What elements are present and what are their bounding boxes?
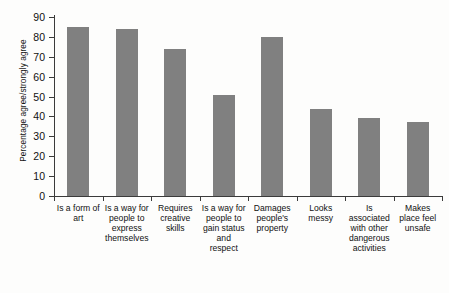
x-axis-tick: [297, 196, 298, 201]
y-axis-tick-label: 30: [19, 131, 45, 141]
x-axis-category-label: Makes place feel unsafe: [396, 204, 441, 234]
x-axis-tick: [248, 196, 249, 201]
bars-layer: [54, 17, 442, 196]
y-axis-tick-label: 10: [19, 171, 45, 181]
x-axis-tick: [200, 196, 201, 201]
bar: [358, 118, 380, 196]
bar: [67, 27, 89, 196]
x-axis-tick: [394, 196, 395, 201]
x-axis-category-label: Is associated with other dangerous activ…: [347, 204, 392, 254]
y-axis-tick-label: 20: [19, 151, 45, 161]
bar-chart-figure: Percentage agree/strongly agree 01020304…: [0, 0, 449, 293]
bar: [116, 29, 138, 196]
bar: [407, 122, 429, 196]
bar: [164, 49, 186, 196]
x-axis-category-label: Is a way for people to express themselve…: [105, 204, 150, 244]
y-axis-tick-label: 90: [19, 12, 45, 22]
x-axis-category-label: Requires creative skills: [153, 204, 198, 234]
x-axis-tick: [54, 196, 55, 201]
x-axis-category-label: Is a form of art: [56, 204, 101, 224]
x-axis-category-label: Is a way for people to gain status and r…: [202, 204, 247, 254]
x-axis-category-label: Damages people's property: [250, 204, 295, 234]
bar: [310, 109, 332, 197]
x-axis-category-label: Looks messy: [299, 204, 344, 224]
bar: [261, 37, 283, 196]
x-axis-category-labels: Is a form of artIs a way for people to e…: [54, 204, 442, 286]
y-axis-tick-label: 40: [19, 111, 45, 121]
x-axis-tick: [345, 196, 346, 201]
x-axis-tick: [442, 196, 443, 201]
bar: [213, 95, 235, 196]
x-axis-tick: [151, 196, 152, 201]
y-axis-tick-label: 60: [19, 72, 45, 82]
y-axis-tick-label: 0: [19, 191, 45, 201]
x-axis-tick: [103, 196, 104, 201]
y-axis-tick-label: 50: [19, 92, 45, 102]
y-axis-tick-label: 80: [19, 32, 45, 42]
y-axis-tick-label: 70: [19, 52, 45, 62]
